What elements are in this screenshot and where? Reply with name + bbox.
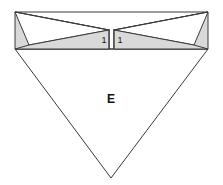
label-left-segment: 1 — [101, 35, 106, 45]
figure-canvas: 1 1 E — [0, 0, 223, 185]
label-right-segment: 1 — [117, 35, 122, 45]
label-main-region: E — [107, 92, 115, 106]
geometry-figure: 1 1 E — [0, 0, 223, 185]
